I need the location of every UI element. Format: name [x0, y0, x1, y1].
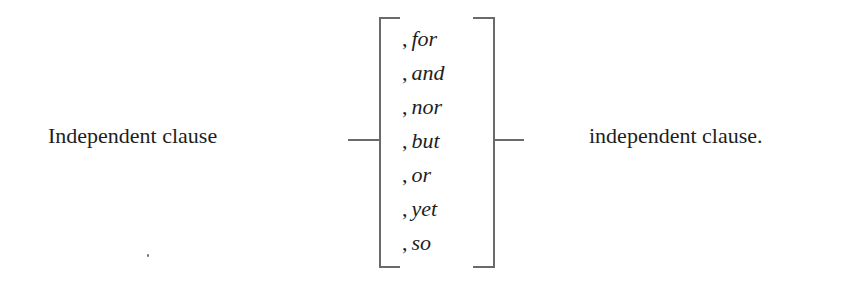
conjunction-list: ,for ,and ,nor ,but ,or ,yet ,so [402, 22, 445, 260]
comma: , [402, 230, 408, 255]
right-bracket-top [473, 17, 494, 19]
right-bracket-bottom [473, 266, 494, 268]
conjunction-word: and [412, 60, 445, 85]
comma: , [402, 94, 408, 119]
left-clause-label: Independent clause [48, 125, 217, 147]
conjunction-item: ,for [402, 22, 445, 56]
comma: , [402, 60, 408, 85]
right-clause-label: independent clause. [589, 125, 763, 147]
comma: , [402, 26, 408, 51]
left-connector-line [348, 139, 380, 141]
comma: , [402, 196, 408, 221]
conjunction-word: yet [412, 196, 438, 221]
conjunction-word: for [412, 26, 438, 51]
comma: , [402, 128, 408, 153]
conjunction-item: ,yet [402, 192, 445, 226]
conjunction-item: ,and [402, 56, 445, 90]
right-connector-line [494, 139, 524, 141]
comma: , [402, 162, 408, 187]
scan-speck [147, 254, 149, 257]
conjunction-word: nor [412, 94, 443, 119]
left-bracket-top [379, 17, 400, 19]
left-bracket-vertical [379, 17, 381, 268]
conjunction-item: ,or [402, 158, 445, 192]
conjunction-word: but [412, 128, 440, 153]
conjunction-word: so [412, 230, 432, 255]
conjunction-word: or [412, 162, 432, 187]
conjunction-item: ,nor [402, 90, 445, 124]
left-bracket-bottom [379, 266, 400, 268]
conjunction-item: ,so [402, 226, 445, 260]
conjunction-item: ,but [402, 124, 445, 158]
right-bracket-vertical [493, 17, 495, 268]
